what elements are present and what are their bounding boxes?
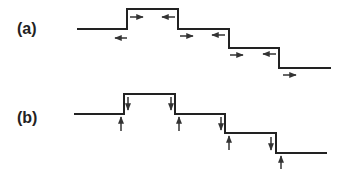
panel-a-arrows <box>115 17 296 75</box>
staircase-diagram <box>0 0 346 175</box>
panel-b <box>74 94 327 169</box>
panel-b-staircase-profile <box>74 94 327 153</box>
panel-a <box>77 9 331 75</box>
